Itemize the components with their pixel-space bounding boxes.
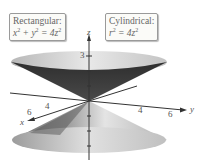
z-tick-label: 3 [80, 50, 85, 60]
x-tick-label-4: 4 [45, 101, 50, 111]
z-axis-label: z [87, 27, 91, 37]
rectangular-equation: x2 + y2 = 4z2 [13, 27, 62, 39]
rectangular-heading: Rectangular: [13, 15, 62, 27]
y-axis-label: y [190, 104, 194, 114]
y-tick-label-6: 6 [168, 109, 173, 119]
cylindrical-heading: Cylindrical: [109, 15, 154, 27]
x-axis-label: x [20, 117, 24, 127]
x-tick-label-6: 6 [27, 107, 32, 117]
rectangular-equation-box: Rectangular: x2 + y2 = 4z2 [9, 13, 66, 41]
cylindrical-equation: r2 = 4z2 [109, 27, 154, 39]
cylindrical-equation-box: Cylindrical: r2 = 4z2 [105, 13, 158, 41]
y-tick-label-4: 4 [138, 105, 143, 115]
